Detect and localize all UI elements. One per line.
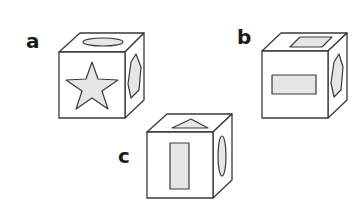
ellipse-icon [218,136,226,176]
ellipse-icon [83,38,123,46]
vertical-rectangle-icon [170,143,189,189]
rectangle-icon [272,75,316,94]
cube-a-label: a [26,29,40,53]
cube-c: c [118,114,232,198]
cube-c-label: c [118,144,130,168]
cube-diagram: a b c [0,0,359,221]
cube-b: b [237,25,347,118]
cube-a: a [26,29,144,118]
cube-b-label: b [237,25,251,49]
